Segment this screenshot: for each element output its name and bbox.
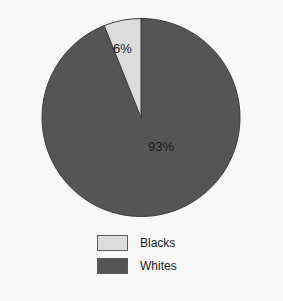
slice-value-label-blacks: 6%: [113, 41, 132, 56]
legend-item-whites[interactable]: Whites: [97, 257, 177, 274]
legend-item-blacks[interactable]: Blacks: [97, 234, 177, 251]
pie-chart-figure: 6% 93% Blacks Whites: [0, 0, 283, 301]
chart-legend: Blacks Whites: [97, 234, 177, 274]
legend-label-blacks: Blacks: [140, 236, 175, 250]
legend-label-whites: Whites: [140, 259, 177, 273]
legend-swatch-blacks: [97, 235, 128, 251]
legend-swatch-whites: [97, 258, 128, 274]
slice-value-label-whites: 93%: [148, 139, 174, 154]
